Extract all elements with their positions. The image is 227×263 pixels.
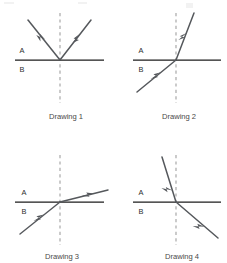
medium-label-a-4: A [139,188,144,197]
caption-drawing-3: Drawing 3 [45,252,79,261]
medium-label-b-3: B [22,207,27,216]
medium-label-b-2: B [139,65,144,74]
scan-artifact [4,2,193,8]
refracted-ray-2 [176,13,194,60]
drawing-4-panel: A B Drawing 4 [133,155,221,261]
medium-label-a-1: A [20,46,25,55]
drawing-1-panel: A B Drawing 1 [15,13,104,121]
caption-drawing-2: Drawing 2 [162,112,196,121]
drawing-3-panel: A B Drawing 3 [15,155,108,261]
drawing-2-panel: A B Drawing 2 [133,13,221,121]
medium-label-a-2: A [139,46,144,55]
caption-drawing-4: Drawing 4 [165,252,199,261]
ray-diagram-figure: A B Drawing 1 A B Drawing 2 [0,0,227,263]
medium-label-b-1: B [20,65,25,74]
medium-label-b-4: B [139,207,144,216]
incident-ray-1 [28,20,60,60]
refracted-ray-4 [176,202,218,238]
incident-ray-4 [162,157,176,202]
caption-drawing-1: Drawing 1 [49,112,83,121]
medium-label-a-3: A [22,188,27,197]
incident-ray-4-arrowhead [161,187,172,192]
